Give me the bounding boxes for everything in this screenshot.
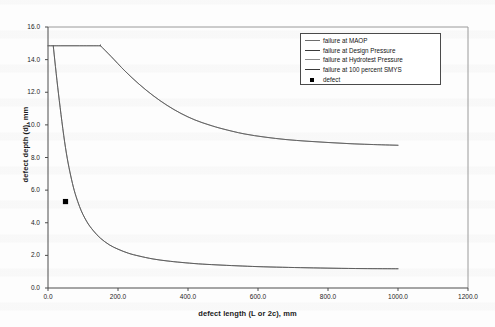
legend-label: failure at Design Pressure bbox=[321, 47, 395, 54]
x-tick-label: 400.0 bbox=[168, 293, 208, 300]
legend-item: failure at Hydrotest Pressure bbox=[304, 55, 440, 65]
x-tick-label: 0.0 bbox=[28, 293, 68, 300]
defect-marker bbox=[63, 199, 68, 204]
y-tick-label: 10.0 bbox=[14, 121, 40, 128]
legend-label: failure at MAOP bbox=[321, 37, 367, 44]
y-tick-label: 0.0 bbox=[14, 284, 40, 291]
legend-line-icon bbox=[304, 46, 321, 55]
x-tick-label: 1200.0 bbox=[448, 293, 488, 300]
legend-item: failure at 100 percent SMYS bbox=[304, 65, 440, 75]
y-tick-label: 14.0 bbox=[14, 56, 40, 63]
y-tick-label: 4.0 bbox=[14, 219, 40, 226]
data-point-markers bbox=[63, 199, 68, 204]
x-tick-label: 200.0 bbox=[98, 293, 138, 300]
x-tick-label: 1000.0 bbox=[378, 293, 418, 300]
x-tick-label: 800.0 bbox=[308, 293, 348, 300]
legend-label: failure at 100 percent SMYS bbox=[321, 66, 402, 73]
y-tick-label: 16.0 bbox=[14, 23, 40, 30]
y-tick-label: 12.0 bbox=[14, 88, 40, 95]
y-tick-label: 2.0 bbox=[14, 251, 40, 258]
legend-item: defect bbox=[304, 74, 440, 84]
legend-line-icon bbox=[304, 55, 321, 64]
chart-screenshot: defect depth (d), mm defect length (L or… bbox=[0, 0, 495, 327]
legend-square-icon bbox=[304, 75, 321, 84]
legend-line-icon bbox=[304, 36, 321, 45]
legend-line-icon bbox=[304, 65, 321, 74]
legend-label: defect bbox=[321, 76, 340, 83]
legend-label: failure at Hydrotest Pressure bbox=[321, 56, 403, 63]
x-tick-label: 600.0 bbox=[238, 293, 278, 300]
y-tick-label: 6.0 bbox=[14, 186, 40, 193]
legend-item: failure at Design Pressure bbox=[304, 46, 440, 56]
y-axis-label: defect depth (d), mm bbox=[21, 100, 30, 190]
y-tick-label: 8.0 bbox=[14, 154, 40, 161]
legend: failure at MAOPfailure at Design Pressur… bbox=[300, 33, 441, 85]
legend-item: failure at MAOP bbox=[304, 36, 440, 46]
x-axis-label: defect length (L or 2c), mm bbox=[0, 309, 495, 318]
